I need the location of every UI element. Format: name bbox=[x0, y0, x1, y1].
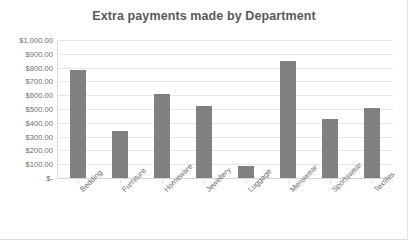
bar-bedding[interactable] bbox=[70, 70, 86, 178]
bar-slot bbox=[351, 40, 393, 178]
bar-jewellery[interactable] bbox=[196, 106, 212, 178]
y-axis-tick-label: $1,000.00 bbox=[0, 36, 53, 45]
bar-luggage[interactable] bbox=[238, 166, 254, 178]
bar-slot bbox=[309, 40, 351, 178]
x-axis-slot: Jewellery bbox=[183, 180, 225, 226]
x-axis-slot: Bedding bbox=[57, 180, 99, 226]
bar-sportswear[interactable] bbox=[322, 119, 338, 178]
y-axis-tick-label: $400.00 bbox=[0, 118, 53, 127]
y-axis-tick-label: $300.00 bbox=[0, 132, 53, 141]
y-axis-tick-label: $900.00 bbox=[0, 49, 53, 58]
bar-textiles[interactable] bbox=[364, 108, 380, 178]
x-axis-slot: Furniture bbox=[99, 180, 141, 226]
x-axis-tick bbox=[288, 180, 289, 183]
x-axis-tick bbox=[330, 180, 331, 183]
y-axis-labels: $1,000.00$900.00$800.00$700.00$600.00$50… bbox=[0, 40, 53, 178]
x-axis-labels: BeddingFurnitureHomewareJewelleryLuggage… bbox=[57, 180, 393, 226]
bar-menswear[interactable] bbox=[280, 61, 296, 178]
bar-slot bbox=[99, 40, 141, 178]
bar-series bbox=[57, 40, 393, 178]
x-axis-slot: Sportswear bbox=[309, 180, 351, 226]
y-axis-tick-label: $600.00 bbox=[0, 91, 53, 100]
x-axis-tick bbox=[78, 180, 79, 183]
bar-slot bbox=[183, 40, 225, 178]
y-axis-tick-label: $800.00 bbox=[0, 63, 53, 72]
y-axis-tick-label: $- bbox=[0, 174, 53, 183]
bar-slot bbox=[267, 40, 309, 178]
y-axis-tick-label: $700.00 bbox=[0, 77, 53, 86]
plot-area bbox=[57, 40, 393, 178]
x-axis-tick bbox=[372, 180, 373, 183]
x-axis-slot: Menswear bbox=[267, 180, 309, 226]
x-axis-slot: Luggage bbox=[225, 180, 267, 226]
x-axis-slot: Homeware bbox=[141, 180, 183, 226]
x-axis-tick bbox=[162, 180, 163, 183]
bar-furniture[interactable] bbox=[112, 131, 128, 178]
bar-slot bbox=[141, 40, 183, 178]
bar-chart: Extra payments made by Department $1,000… bbox=[0, 0, 408, 240]
chart-title: Extra payments made by Department bbox=[0, 9, 408, 23]
bar-slot bbox=[225, 40, 267, 178]
bar-slot bbox=[57, 40, 99, 178]
x-axis-tick bbox=[204, 180, 205, 183]
y-axis-tick-label: $500.00 bbox=[0, 105, 53, 114]
x-axis-tick bbox=[120, 180, 121, 183]
x-axis-tick bbox=[246, 180, 247, 183]
y-axis-tick-label: $100.00 bbox=[0, 160, 53, 169]
y-axis-tick-label: $200.00 bbox=[0, 146, 53, 155]
bar-homeware[interactable] bbox=[154, 94, 170, 178]
x-axis-slot: Textiles bbox=[351, 180, 393, 226]
